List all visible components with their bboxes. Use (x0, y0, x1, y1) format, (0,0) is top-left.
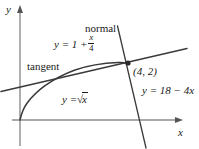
curve-equation-label: y =√x (62, 94, 88, 105)
tangent-equation-lead: y = 1 + (54, 38, 87, 50)
y-axis-arrowhead (17, 5, 23, 13)
tangency-point-label: (4, 2) (133, 66, 157, 77)
fraction-numerator: x (88, 33, 95, 42)
normal-equation-label: y = 18 − 4x (142, 85, 194, 96)
tangency-point-marker (125, 60, 130, 65)
curve-equation-lead: y = (62, 93, 77, 105)
tangent-annotation-label: tangent (27, 61, 59, 72)
radical-group: √x (77, 94, 88, 105)
y-axis-label: y (6, 4, 11, 15)
math-figure: y x normal tangent y = 1 +x4 (4, 2) y =√… (0, 0, 199, 149)
radicand: x (82, 92, 88, 105)
x-axis-label: x (178, 127, 183, 138)
tangent-equation-label: y = 1 +x4 (54, 33, 95, 54)
tangent-equation-fraction: x4 (88, 33, 95, 54)
x-axis-arrowhead (175, 117, 183, 123)
fraction-denominator: 4 (88, 44, 95, 53)
